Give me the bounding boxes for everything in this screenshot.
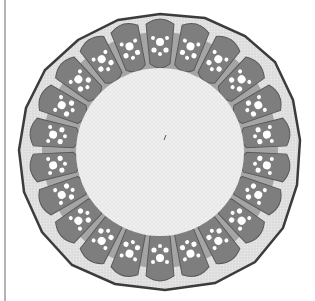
pith — [76, 68, 244, 236]
stem-cross-section-image — [0, 0, 315, 301]
